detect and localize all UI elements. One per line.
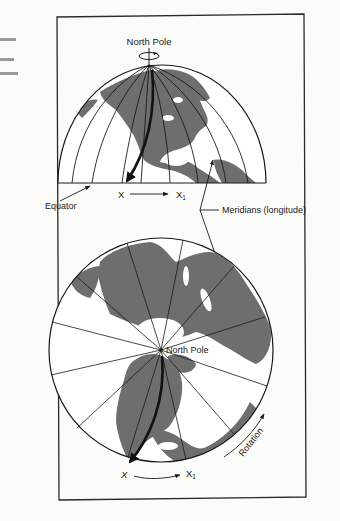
bottom-point-x1-label: X1: [186, 468, 196, 480]
coriolis-diagram: North Pole Equator X X1 Meridians (longi…: [0, 0, 340, 521]
bottom-north-pole-label: North Pole: [166, 345, 209, 355]
equator-label: Equator: [45, 201, 77, 211]
top-point-x1-label: X1: [176, 189, 186, 201]
north-pole-marker: [159, 348, 162, 351]
bottom-x-to-x1-arrow: [134, 475, 180, 479]
meridians-label: Meridians (longitude): [222, 205, 306, 215]
bottom-globe: North Pole: [49, 238, 273, 464]
bottom-point-x-label: X: [120, 469, 128, 480]
top-point-x-label: X: [118, 189, 125, 200]
equator-pointer-arrow: [60, 186, 90, 201]
top-globe: North Pole: [58, 36, 266, 183]
top-north-pole-label: North Pole: [127, 36, 172, 47]
rotation-label: Rotation: [237, 426, 266, 459]
